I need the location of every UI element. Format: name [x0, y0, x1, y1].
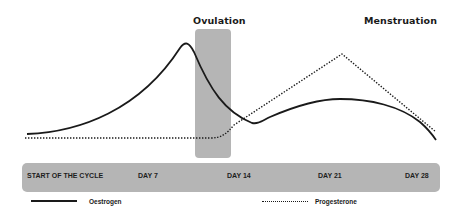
legend-oestrogen: Oestrogen	[31, 195, 122, 207]
legend-oestrogen-label: Oestrogen	[89, 198, 122, 205]
cycle-timeline-bar: START OF THE CYCLE DAY 7 DAY 14 DAY 21 D…	[22, 163, 440, 192]
timeline-day-7: DAY 7	[138, 172, 158, 179]
legend-progesterone-label: Progesterone	[315, 198, 357, 205]
legend-progesterone: Progesterone	[262, 195, 357, 207]
timeline-start: START OF THE CYCLE	[27, 172, 103, 179]
solid-line-swatch	[31, 200, 77, 202]
menstruation-label: Menstruation	[364, 15, 437, 26]
timeline-day-14: DAY 14	[227, 172, 251, 179]
dotted-line-swatch	[262, 201, 308, 202]
hormone-cycle-diagram: Ovulation Menstruation START OF THE CYCL…	[0, 0, 462, 210]
timeline-day-21: DAY 21	[318, 172, 342, 179]
ovulation-label: Ovulation	[193, 15, 246, 26]
oestrogen-line	[27, 43, 436, 140]
timeline-day-28: DAY 28	[405, 172, 429, 179]
